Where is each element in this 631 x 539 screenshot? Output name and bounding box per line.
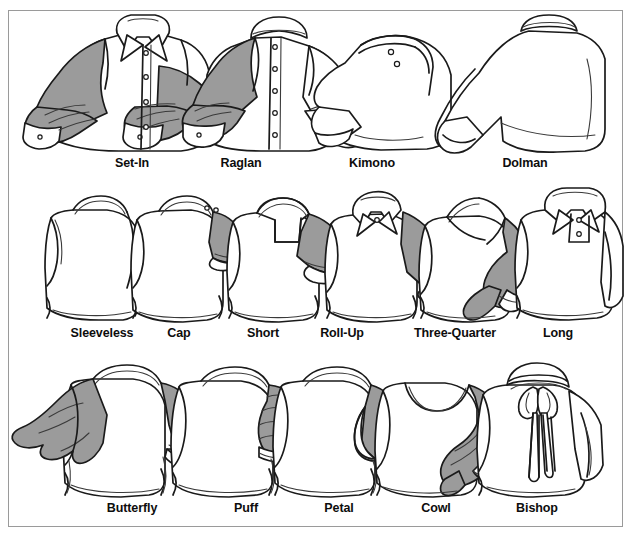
label-butterfly: Butterfly — [107, 501, 158, 515]
label-cap: Cap — [167, 326, 190, 340]
label-kimono: Kimono — [349, 156, 395, 170]
label-short: Short — [247, 326, 279, 340]
row-2-labels: Sleeveless Cap Short Roll-Up Three-Quart… — [9, 326, 624, 344]
row-3-illustrations — [9, 361, 624, 501]
row-set-in-raglan-kimono-dolman: Set-In Raglan Kimono Dolman — [9, 11, 624, 176]
label-sleeveless: Sleeveless — [71, 326, 134, 340]
label-long: Long — [543, 326, 573, 340]
row-2-illustrations — [9, 186, 624, 326]
sleeve-types-chart: Set-In Raglan Kimono Dolman — [0, 0, 631, 539]
label-petal: Petal — [324, 501, 353, 515]
row-1-artwork — [9, 11, 624, 156]
shirt-long-sleeve-icon — [515, 188, 623, 320]
label-raglan: Raglan — [220, 156, 261, 170]
label-three-quarter: Three-Quarter — [414, 326, 496, 340]
shirt-bishop-sleeve-icon — [477, 363, 603, 497]
row-1-illustrations — [9, 11, 624, 156]
row-sleeve-lengths: Sleeveless Cap Short Roll-Up Three-Quart… — [9, 186, 624, 351]
row-2-artwork — [9, 186, 624, 326]
shirt-sleeveless-icon — [45, 196, 139, 320]
label-roll-up: Roll-Up — [320, 326, 364, 340]
shirt-kimono-sleeve-icon — [312, 36, 451, 150]
label-set-in: Set-In — [115, 156, 149, 170]
label-dolman: Dolman — [502, 156, 547, 170]
label-bishop: Bishop — [516, 501, 558, 515]
label-puff: Puff — [234, 501, 258, 515]
shirt-dolman-sleeve-icon — [435, 15, 605, 153]
label-cowl: Cowl — [421, 501, 450, 515]
row-3-artwork — [9, 361, 624, 501]
row-3-labels: Butterfly Puff Petal Cowl Bishop — [9, 501, 624, 519]
row-1-labels: Set-In Raglan Kimono Dolman — [9, 156, 624, 174]
row-decorative-sleeves: Butterfly Puff Petal Cowl Bishop — [9, 361, 624, 526]
chart-frame: Set-In Raglan Kimono Dolman — [8, 10, 623, 527]
